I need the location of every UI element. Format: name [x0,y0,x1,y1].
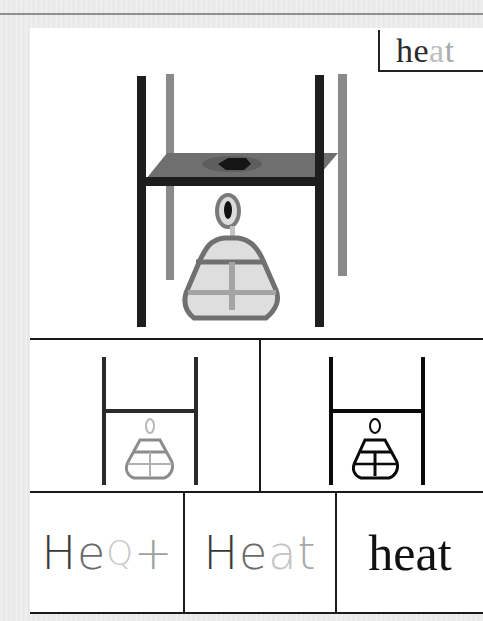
word-panel-print: heat [337,493,483,613]
alcohol-lamp-icon [185,195,278,318]
word-part: e [77,526,106,580]
word-part: e [239,526,268,580]
word-part: a [268,526,297,580]
word-panel-handwritten: Heat [185,493,335,613]
word-part: t [298,526,317,580]
word-part: heat [368,524,451,582]
word-part: H [203,526,239,580]
word-panel-stylized: HeQ+ [32,493,183,613]
word-part: Q [106,533,134,573]
word-part: + [134,526,174,580]
word-part: H [41,526,77,580]
